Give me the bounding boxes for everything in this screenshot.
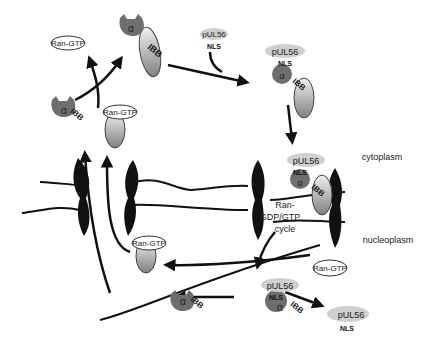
importin-alpha-nucleus: α IBB bbox=[170, 290, 205, 311]
svg-text:pUL56: pUL56 bbox=[338, 310, 365, 320]
svg-text:α: α bbox=[61, 105, 67, 116]
svg-text:Ran-GTP: Ran-GTP bbox=[132, 239, 166, 248]
cytoplasm-label: cytoplasm bbox=[362, 152, 403, 162]
svg-text:NLS: NLS bbox=[278, 60, 292, 67]
svg-text:α: α bbox=[279, 71, 284, 81]
svg-text:Ran-GTP: Ran-GTP bbox=[51, 39, 85, 48]
pore-right-b bbox=[329, 168, 342, 248]
svg-text:α: α bbox=[297, 178, 302, 188]
importin-beta-rangtp-cytoplasm: Ran-GTP bbox=[103, 105, 137, 148]
svg-text:NLS: NLS bbox=[269, 294, 283, 301]
nuclear-import-diagram: Ran-GTP α IBB pUL56 NLS pUL56 NLS α IBB … bbox=[0, 0, 436, 351]
svg-text:α: α bbox=[128, 23, 134, 34]
svg-text:Ran-: Ran- bbox=[275, 200, 295, 210]
importin-alpha-cytoplasm: α IBB bbox=[51, 96, 85, 123]
pathway-arrows bbox=[75, 52, 320, 305]
importin-complex-top: α IBB bbox=[120, 14, 165, 78]
pore-left-b bbox=[124, 160, 138, 236]
svg-text:NLS: NLS bbox=[207, 43, 221, 50]
svg-text:α: α bbox=[277, 302, 283, 313]
svg-text:pUL56: pUL56 bbox=[293, 156, 320, 166]
importin-beta-rangtp-nucleus: Ran-GTP bbox=[132, 236, 166, 273]
ran-gtp-nucleus: Ran-GTP bbox=[313, 260, 347, 276]
svg-text:α: α bbox=[180, 296, 186, 307]
svg-text:Ran-GTP: Ran-GTP bbox=[103, 108, 137, 117]
svg-text:NLS: NLS bbox=[293, 169, 307, 176]
svg-text:pUL56: pUL56 bbox=[267, 281, 294, 291]
svg-text:GDP/GTP: GDP/GTP bbox=[260, 212, 301, 222]
svg-text:IBB: IBB bbox=[289, 300, 306, 316]
cargo-released: pUL56 NLS bbox=[327, 306, 369, 332]
svg-text:pUL56: pUL56 bbox=[272, 47, 299, 57]
nucleoplasm-label: nucleoplasm bbox=[363, 235, 414, 245]
svg-text:NLS: NLS bbox=[340, 325, 354, 332]
svg-text:Ran-GTP: Ran-GTP bbox=[313, 264, 347, 273]
cargo-incoming: pUL56 NLS bbox=[200, 28, 228, 50]
cargo-complex-cytoplasm: pUL56 NLS α IBB bbox=[265, 44, 314, 118]
pore-right-a bbox=[252, 160, 265, 240]
ran-cycle-label: Ran- GDP/GTP cycle bbox=[260, 200, 301, 234]
svg-text:pUL56: pUL56 bbox=[202, 30, 226, 39]
svg-text:cycle: cycle bbox=[275, 224, 296, 234]
ran-gtp-released-top: Ran-GTP bbox=[51, 36, 85, 50]
